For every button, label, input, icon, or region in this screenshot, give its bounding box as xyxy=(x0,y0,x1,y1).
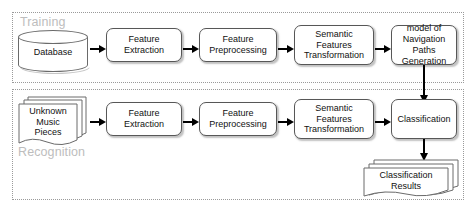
arrow-recognition-fp-to-sft xyxy=(278,117,294,127)
arrow-training-fe-to-fp xyxy=(183,44,199,54)
node-classification[interactable]: Classification xyxy=(391,99,457,139)
node-model-of-navigation-paths-generation-label: model of Navigation Paths Generation xyxy=(392,23,456,67)
node-classification-label: Classification xyxy=(394,114,453,125)
node-training-semantic-features-transformation[interactable]: Semantic Features Transformation xyxy=(294,25,374,65)
arrow-recognition-fe-to-fp xyxy=(183,117,199,127)
arrow-training-sft-to-model xyxy=(375,44,391,54)
node-classification-results-label: Classification Results xyxy=(364,166,448,196)
node-recognition-feature-extraction[interactable]: Feature Extraction xyxy=(106,102,182,136)
node-recognition-feature-preprocessing[interactable]: Feature Preprocessing xyxy=(199,102,277,136)
node-training-feature-preprocessing-label: Feature Preprocessing xyxy=(206,34,270,56)
region-training-label: Training xyxy=(20,16,66,29)
arrow-unknown-music-to-feature-extraction xyxy=(90,117,106,127)
node-training-feature-extraction-label: Feature Extraction xyxy=(121,34,167,56)
node-training-semantic-features-transformation-label: Semantic Features Transformation xyxy=(301,29,367,62)
node-model-of-navigation-paths-generation[interactable]: model of Navigation Paths Generation xyxy=(391,25,457,65)
diagram-canvas: Training Recognition Database Feature Ex… xyxy=(0,0,475,214)
node-recognition-semantic-features-transformation[interactable]: Semantic Features Transformation xyxy=(294,99,374,139)
node-unknown-music-pieces-label: Unknown Music Pieces xyxy=(18,100,78,144)
arrow-model-to-classification xyxy=(418,65,430,103)
node-training-feature-extraction[interactable]: Feature Extraction xyxy=(106,28,182,62)
node-classification-results[interactable]: Classification Results xyxy=(358,158,462,200)
node-training-feature-preprocessing[interactable]: Feature Preprocessing xyxy=(199,28,277,62)
node-database[interactable]: Database xyxy=(18,30,90,72)
arrow-training-fp-to-sft xyxy=(278,44,294,54)
node-recognition-semantic-features-transformation-label: Semantic Features Transformation xyxy=(301,103,367,136)
node-recognition-feature-preprocessing-label: Feature Preprocessing xyxy=(206,108,270,130)
arrow-database-to-feature-extraction xyxy=(90,44,106,54)
node-recognition-feature-extraction-label: Feature Extraction xyxy=(121,108,167,130)
arrow-recognition-sft-to-classification xyxy=(375,117,391,127)
node-unknown-music-pieces[interactable]: Unknown Music Pieces xyxy=(16,95,92,148)
node-database-label: Database xyxy=(18,42,88,62)
